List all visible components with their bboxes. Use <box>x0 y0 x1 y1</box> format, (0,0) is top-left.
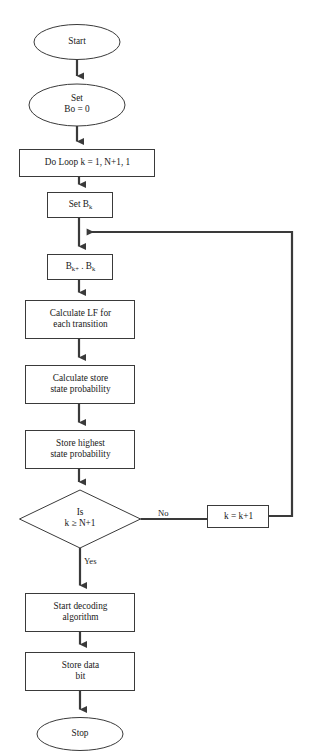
node-set-b0 <box>29 84 125 126</box>
node-set-bk <box>48 193 113 218</box>
node-k-increment <box>208 506 269 528</box>
edge-label-yes: Yes <box>84 556 97 566</box>
node-bk-bk <box>48 255 113 280</box>
node-stop <box>37 718 123 751</box>
flowchart-graphics <box>0 0 309 755</box>
node-decision-k-ge-n1 <box>20 490 141 548</box>
node-calculate-lf <box>26 301 135 339</box>
node-store-highest-state-probability <box>26 431 135 469</box>
node-start-decoding-algorithm <box>26 594 135 632</box>
node-start <box>34 25 120 60</box>
node-calculate-store-state-probability <box>26 366 135 404</box>
node-do-loop <box>20 150 155 177</box>
node-store-data-bit <box>26 653 135 691</box>
flowchart-canvas: Start SetBo = 0 Do Loop k = 1, N+1, 1 Se… <box>0 0 309 755</box>
edge-label-no: No <box>158 508 169 518</box>
